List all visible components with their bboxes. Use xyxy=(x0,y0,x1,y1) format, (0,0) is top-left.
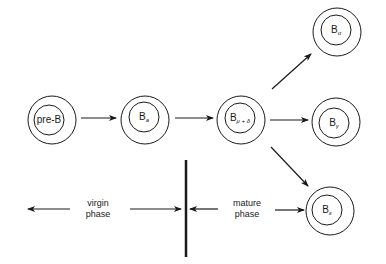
cell-label-b-s: Ba xyxy=(139,112,149,123)
cell-label-text: B xyxy=(230,112,237,123)
cell-label-text: B xyxy=(331,24,338,35)
cell-label-subscript: α xyxy=(338,30,341,36)
cell-label-b-gamma: Bγ xyxy=(329,118,339,129)
mature-phase-line2: phase xyxy=(233,209,261,220)
cell-label-pre-b: pre-B xyxy=(37,115,61,125)
cell-label-text: B xyxy=(322,204,329,215)
cell-label-text: pre-B xyxy=(37,114,61,125)
virgin-phase-line1: virgin xyxy=(86,198,111,209)
virgin-phase-line2: phase xyxy=(86,209,111,220)
virgin-phase-label: virgin phase xyxy=(86,198,111,220)
cell-label-b-alpha: Bα xyxy=(331,25,341,36)
cell-label-subscript: a xyxy=(146,117,149,123)
cell-label-subscript: ε xyxy=(329,210,332,216)
mature-phase-line1: mature xyxy=(233,198,261,209)
b-cell-differentiation-diagram xyxy=(0,0,386,264)
mature-phase-label: mature phase xyxy=(233,198,261,220)
cell-label-text: B xyxy=(329,117,336,128)
arrows-layer xyxy=(28,54,311,210)
arrow-b-mu-delta-to-b-alpha-icon xyxy=(272,54,311,89)
cell-label-b-epsilon: Bε xyxy=(322,205,331,216)
cell-label-text: B xyxy=(139,111,146,122)
cell-label-b-mu-delta: Bμ + δ xyxy=(230,113,250,124)
cell-label-subscript: γ xyxy=(336,123,339,129)
cells-layer xyxy=(28,8,361,235)
cell-label-subscript: μ + δ xyxy=(237,118,250,124)
arrow-b-mu-delta-to-b-epsilon-icon xyxy=(271,147,308,186)
